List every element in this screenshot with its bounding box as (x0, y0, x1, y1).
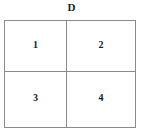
quadrant-cell-3-label: 3 (5, 92, 66, 103)
grid-divider-horizontal (5, 71, 135, 72)
figure-top-label: D (0, 1, 141, 14)
quadrant-cell-2-label: 2 (67, 39, 135, 50)
quadrant-figure: D 1 2 3 4 (0, 0, 141, 136)
quadrant-cell-4[interactable]: 4 (67, 72, 135, 127)
grid-divider-vertical (66, 21, 67, 127)
quadrant-grid: 1 2 3 4 (4, 20, 136, 128)
quadrant-cell-3[interactable]: 3 (5, 72, 66, 127)
quadrant-cell-4-label: 4 (67, 92, 135, 103)
quadrant-cell-1[interactable]: 1 (5, 21, 66, 71)
quadrant-cell-2[interactable]: 2 (67, 21, 135, 71)
quadrant-cell-1-label: 1 (5, 39, 66, 50)
